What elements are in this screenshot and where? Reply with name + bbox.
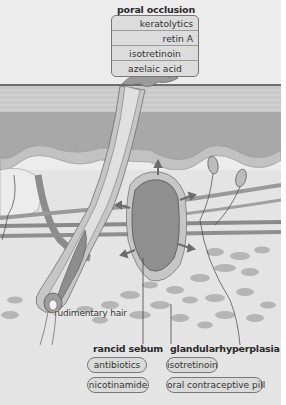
- treatment-retin-a: retin A: [112, 31, 198, 46]
- treatment-antibiotics: antibiotics: [87, 357, 147, 373]
- treatment-azelaic-acid: azelaic acid: [112, 61, 198, 76]
- poral-occlusion-heading: poral occlusion: [117, 4, 195, 15]
- rancid-sebum-heading: rancid sebum: [93, 343, 163, 354]
- poral-occlusion-treatment-list: keratolytics retin A isotretinoin azelai…: [111, 15, 199, 77]
- treatment-oral-contraceptive-pill: oral contraceptive pill: [166, 377, 263, 393]
- treatment-isotretinoin: isotretinoin: [112, 46, 198, 61]
- glandular-hyperplasia-heading: glandularhyperplasia: [170, 343, 280, 354]
- treatment-isotretinoin-oral: isotretinoin: [166, 357, 218, 373]
- rudimentary-hair-label: rudimentary hair: [54, 308, 127, 318]
- diagram-panel: poral occlusion keratolytics retin A iso…: [0, 0, 281, 405]
- treatment-keratolytics: keratolytics: [112, 16, 198, 31]
- treatment-nicotinamide: nicotinamide: [87, 377, 149, 393]
